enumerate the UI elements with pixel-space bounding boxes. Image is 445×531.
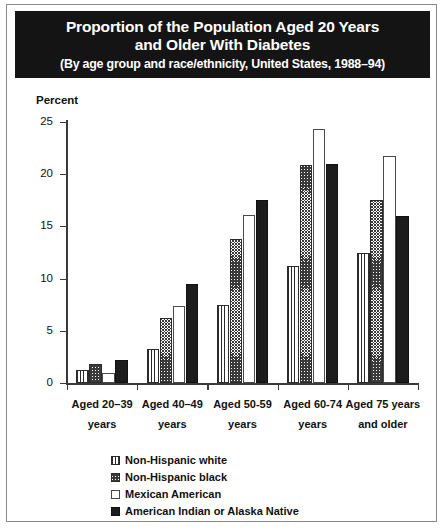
bar [396, 216, 409, 383]
chart-title-banner: Proportion of the Population Aged 20 Yea… [15, 11, 430, 78]
x-axis-group-label-line1: Aged 50-59 [213, 398, 272, 410]
bar [160, 318, 173, 383]
figure-frame: Proportion of the Population Aged 20 Yea… [6, 4, 437, 522]
x-axis-tick [207, 383, 208, 390]
legend-swatch-icon [111, 490, 120, 499]
bar [370, 200, 383, 383]
x-axis-tick [137, 383, 138, 390]
bar [115, 360, 128, 383]
legend-item: Non-Hispanic black [111, 469, 371, 485]
x-axis-tick [67, 383, 68, 390]
title-subtitle: (By age group and race/ethnicity, United… [60, 56, 385, 73]
bar [102, 373, 115, 383]
y-axis-tick [60, 122, 67, 123]
x-axis-tick [278, 383, 279, 390]
legend-swatch-icon [111, 473, 120, 482]
legend-item-label: American Indian or Alaska Native [125, 505, 299, 517]
x-axis-group-label-line1: Aged 40–49 [142, 398, 203, 410]
bar [147, 349, 160, 383]
legend-item-label: Mexican American [125, 488, 221, 500]
y-axis-tick [60, 383, 67, 384]
y-axis-tick [60, 279, 67, 280]
bar [383, 156, 396, 383]
bar [357, 253, 370, 384]
chart-legend: Non-Hispanic whiteNon-Hispanic blackMexi… [111, 452, 371, 520]
bar [243, 215, 256, 383]
x-axis-group-label-line1: Aged 60-74 [283, 398, 342, 410]
x-axis-tick [418, 383, 419, 390]
legend-item-label: Non-Hispanic black [125, 471, 227, 483]
bars-container [67, 122, 418, 383]
x-axis-group-label-line1: Aged 75 years [346, 398, 421, 410]
bar [173, 306, 186, 383]
bar [89, 364, 102, 383]
bar [326, 164, 339, 383]
y-axis-tick-label: 15 [7, 219, 53, 231]
bar [186, 284, 199, 383]
legend-swatch-icon [111, 456, 120, 465]
chart-plot-region: Percent 0510152025 Aged 20–39yearsAged 4… [7, 78, 436, 522]
bar [287, 266, 300, 383]
legend-item: Mexican American [111, 486, 371, 502]
y-axis-tick [60, 174, 67, 175]
x-axis-tick [348, 383, 349, 390]
y-axis-tick-label: 5 [7, 324, 53, 336]
y-axis-tick-label: 0 [7, 376, 53, 388]
legend-item: Non-Hispanic white [111, 452, 371, 468]
x-axis-group-label: Aged 75 yearsand older [340, 396, 426, 432]
title-line-1: Proportion of the Population Aged 20 Yea… [66, 18, 379, 36]
bar [256, 200, 269, 383]
bar [76, 370, 89, 383]
legend-swatch-icon [111, 507, 120, 516]
y-axis-tick-label: 25 [7, 115, 53, 127]
bar [217, 305, 230, 383]
bar [313, 129, 326, 383]
legend-item: American Indian or Alaska Native [111, 503, 371, 519]
x-axis-group-label-line1: Aged 20–39 [72, 398, 133, 410]
y-axis-tick-label: 10 [7, 272, 53, 284]
title-line-2: and Older With Diabetes [135, 36, 311, 54]
y-axis-tick [60, 331, 67, 332]
x-axis-line [66, 383, 418, 385]
y-axis-tick-label: 20 [7, 167, 53, 179]
bar [300, 165, 313, 383]
bar [230, 239, 243, 383]
legend-item-label: Non-Hispanic white [125, 454, 227, 466]
y-axis-tick [60, 226, 67, 227]
x-axis-group-label-line2: and older [340, 416, 426, 432]
y-axis-label: Percent [36, 94, 78, 106]
